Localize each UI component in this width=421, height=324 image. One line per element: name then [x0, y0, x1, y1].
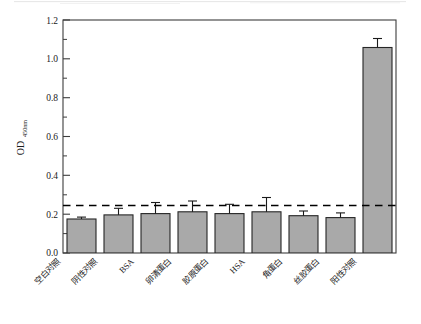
- bar-series: [67, 48, 392, 254]
- bar: [215, 214, 244, 253]
- y-tick-label: 0.6: [46, 132, 58, 142]
- x-tick-label-keratin: 角蛋白: [260, 256, 284, 280]
- x-tick-label-sericin: 丝胶蛋白: [291, 256, 321, 286]
- y-tick-label: 1.2: [46, 16, 58, 26]
- y-tick-label: 0.8: [46, 93, 58, 103]
- bar: [363, 48, 392, 254]
- bar: [141, 214, 170, 253]
- x-tick-label-ovalbumin: 卵清蛋白: [143, 256, 173, 286]
- y-axis-major-ticks: [63, 20, 70, 253]
- bar-chart: 0.0 0.2 0.4 0.6 0.8 1.0 1.2 OD 450nm: [0, 0, 421, 324]
- error-bar: [299, 211, 308, 216]
- x-tick-label-collagen: 胶原蛋白: [180, 256, 210, 286]
- x-axis-tick-labels: 空白对照 阴性对照 BSA 卵清蛋白 胶原蛋白 HSA 角蛋白 丝胶蛋白 阳性对…: [32, 256, 358, 286]
- error-bar: [151, 203, 160, 214]
- scan-noise-band: [14, 1, 406, 4]
- figure-canvas: 0.0 0.2 0.4 0.6 0.8 1.0 1.2 OD 450nm: [0, 0, 421, 324]
- x-tick-label-blank-control: 空白对照: [32, 256, 62, 286]
- error-bar: [373, 39, 382, 48]
- y-tick-label: 0.4: [46, 171, 58, 181]
- error-bars: [77, 39, 382, 220]
- bar: [326, 218, 355, 253]
- error-bar: [114, 208, 123, 215]
- bar: [252, 212, 281, 253]
- bar: [67, 219, 96, 253]
- y-tick-label: 0.2: [46, 210, 58, 220]
- y-axis-title: OD 450nm: [15, 120, 28, 156]
- y-axis-tick-labels: 0.0 0.2 0.4 0.6 0.8 1.0 1.2: [46, 16, 58, 259]
- y-axis-title-text: OD: [15, 141, 26, 155]
- x-tick-label-hsa: HSA: [228, 256, 248, 276]
- y-axis-title-subscript: 450nm: [21, 120, 28, 137]
- y-tick-label: 1.0: [46, 54, 58, 64]
- bar: [104, 215, 133, 253]
- y-tick-label: 0.0: [46, 248, 58, 258]
- error-bar: [188, 201, 197, 212]
- x-tick-label-negative-control: 阴性对照: [69, 256, 99, 286]
- bar: [178, 212, 207, 253]
- x-tick-label-bsa: BSA: [117, 256, 136, 275]
- bar: [289, 216, 318, 253]
- error-bar: [336, 213, 345, 218]
- x-tick-label-positive-control: 阳性对照: [328, 256, 358, 286]
